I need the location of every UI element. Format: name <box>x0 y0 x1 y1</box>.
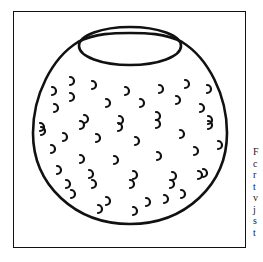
jar-drawing <box>0 0 263 262</box>
c-mark-pattern <box>40 77 222 215</box>
caption-line: c <box>253 158 263 170</box>
jar-body-outline <box>33 33 227 224</box>
caption-line: v <box>253 192 263 204</box>
caption-line: s <box>253 215 263 227</box>
caption-line: t <box>253 181 263 193</box>
truncated-caption-text: F c r t v j s t <box>253 146 263 238</box>
caption-line: j <box>253 204 263 216</box>
caption-line: r <box>253 169 263 181</box>
caption-line: t <box>253 227 263 239</box>
caption-line: F <box>253 146 263 158</box>
